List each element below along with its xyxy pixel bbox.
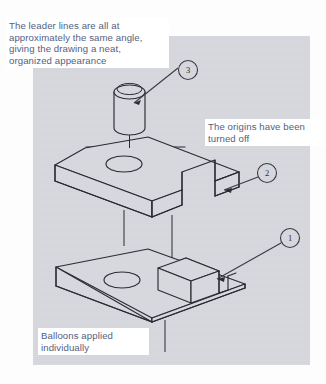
balloons-note: Balloons applied individually — [38, 328, 149, 355]
leader-line-1 — [217, 243, 281, 282]
balloon-1[interactable]: 1 — [281, 229, 300, 248]
balloon-3[interactable]: 3 — [179, 61, 198, 80]
origins-note: The origins have been turned off — [205, 119, 324, 146]
balloon-2[interactable]: 2 — [258, 164, 277, 183]
slotted-plate — [55, 137, 239, 217]
balloon-2-label: 2 — [265, 168, 269, 178]
balloon-3-label: 3 — [186, 65, 190, 75]
balloon-1-label: 1 — [288, 233, 292, 243]
base-block — [56, 239, 245, 322]
leader-lines-note: The leader lines are all at approximatel… — [6, 18, 169, 68]
cylinder-pin — [114, 83, 145, 135]
figure-root: 3 2 1 The leader lines are all at approx… — [0, 0, 326, 384]
